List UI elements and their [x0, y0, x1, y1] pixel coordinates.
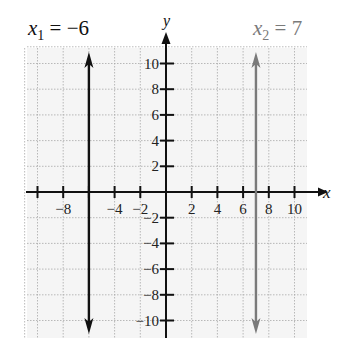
- y-tick-label: 4: [152, 133, 160, 149]
- coordinate-plane-chart: −8−4−2246810108642−2−4−6−8−10 x y x1 = −…: [0, 0, 347, 353]
- y-tick-label: 2: [152, 158, 160, 174]
- y-tick-label: 6: [152, 107, 160, 123]
- x-axis-label: x: [322, 183, 331, 202]
- y-axis-label: y: [161, 12, 171, 30]
- y-tick-label: −8: [143, 287, 159, 303]
- x-tick-label: −8: [55, 201, 71, 217]
- x-tick-label: 4: [214, 201, 222, 217]
- y-tick-label: −4: [143, 235, 159, 251]
- line-label-x1: x1 = −6: [27, 16, 89, 43]
- x-tick-label: 8: [265, 201, 273, 217]
- y-tick-label: −6: [143, 261, 159, 277]
- y-tick-label: −2: [143, 210, 159, 226]
- y-axis-arrow-icon: [162, 32, 171, 44]
- x-tick-label: 2: [188, 201, 196, 217]
- line-label-x2: x2 = 7: [252, 16, 302, 43]
- y-tick-label: 8: [152, 81, 160, 97]
- x-tick-label: 6: [239, 201, 247, 217]
- y-tick-label: −10: [136, 313, 159, 329]
- x-tick-label: 10: [287, 201, 302, 217]
- x-tick-label: −4: [107, 201, 123, 217]
- y-tick-label: 10: [144, 56, 159, 72]
